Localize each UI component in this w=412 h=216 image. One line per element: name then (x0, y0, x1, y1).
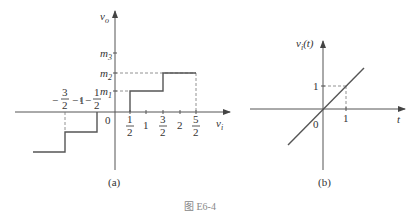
a-y-axis-label: vo (100, 10, 109, 25)
a-y-tick-m2: m2 (100, 67, 112, 82)
a-x-tick-half: 1 2 (126, 113, 134, 138)
b-x-axis-label: t (397, 113, 401, 125)
svg-text:−: − (72, 94, 78, 106)
b-caption: (b) (318, 176, 331, 189)
a-x-tick-neg-1: − 1 (72, 94, 85, 106)
svg-text:3: 3 (62, 86, 68, 98)
b-ramp-line (288, 68, 364, 145)
a-x-tick-neg-half: − 1 2 (85, 86, 101, 111)
svg-text:2: 2 (193, 126, 199, 138)
a-x-tick-2: 2 (177, 119, 183, 131)
a-x-tick-1: 1 (143, 119, 149, 131)
svg-text:1: 1 (79, 94, 85, 106)
b-y-tick-1: 1 (313, 80, 319, 92)
figure-caption: 图 E6-4 (184, 201, 216, 212)
a-y-tick-m3: m3 (100, 47, 112, 62)
b-x-tick-1: 1 (343, 112, 349, 124)
a-staircase-curve (130, 73, 196, 112)
a-x-tick-three-halves: 3 2 (159, 113, 167, 138)
svg-text:5: 5 (193, 113, 199, 125)
svg-text:2: 2 (127, 126, 133, 138)
panel-b: vi(t) t 0 1 1 (b) (250, 37, 405, 189)
b-origin-label: 0 (313, 118, 319, 130)
svg-text:1: 1 (127, 113, 133, 125)
a-y-tick-m1: m1 (100, 85, 112, 100)
svg-text:−: − (85, 94, 91, 106)
a-x-tick-five-halves: 5 2 (192, 113, 200, 138)
svg-text:3: 3 (160, 113, 166, 125)
b-y-axis-label: vi(t) (296, 37, 314, 52)
a-x-tick-neg-three-halves: − 3 2 (52, 86, 69, 111)
a-origin-label: 0 (105, 114, 111, 126)
a-caption: (a) (108, 176, 121, 189)
svg-text:2: 2 (94, 99, 100, 111)
svg-text:1: 1 (94, 86, 100, 98)
svg-text:2: 2 (160, 126, 166, 138)
a-x-axis-label: vi (216, 117, 223, 132)
panel-a: vo vi 0 m3 m2 m1 1 2 1 3 2 2 5 2 − 3 (15, 10, 230, 189)
figure-canvas: vo vi 0 m3 m2 m1 1 2 1 3 2 2 5 2 − 3 (0, 0, 412, 216)
svg-text:2: 2 (62, 99, 68, 111)
svg-text:−: − (52, 94, 58, 106)
